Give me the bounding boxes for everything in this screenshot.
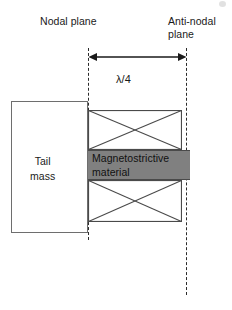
anti-nodal-plane-label-line1: Anti-nodal — [168, 15, 216, 27]
tail-mass-label-line2: mass — [30, 170, 55, 182]
double-headed-arrow-icon — [87, 50, 188, 64]
coil-winding-cross-icon — [88, 180, 182, 222]
nodal-plane-label: Nodal plane — [40, 15, 97, 28]
bottom-coil-winding-box — [88, 180, 182, 222]
quarter-wavelength-label: λ/4 — [116, 73, 131, 86]
scan-artifact — [219, 1, 226, 7]
magnetostrictive-material-label: Magnetostrictivematerial — [92, 152, 169, 179]
magnetostrictive-material-label-line2: material — [92, 166, 130, 178]
anti-nodal-plane-label: Anti-nodalplane — [168, 15, 216, 40]
coil-winding-cross-icon — [88, 110, 182, 150]
top-coil-winding-box — [88, 110, 182, 150]
tail-mass-label-line1: Tail — [35, 155, 51, 167]
anti-nodal-plane-label-line2: plane — [168, 28, 194, 40]
tail-mass-label: Tailmass — [30, 154, 55, 184]
diagram-canvas: Nodal plane Anti-nodalplane λ/4 Tailmass… — [0, 0, 232, 310]
magnetostrictive-material-label-line1: Magnetostrictive — [92, 152, 169, 164]
